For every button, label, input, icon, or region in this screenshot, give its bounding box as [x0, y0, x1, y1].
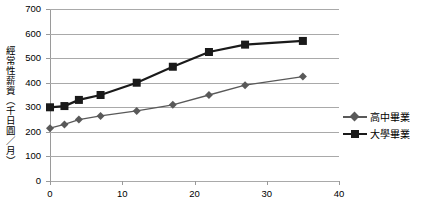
y-tick-label: 300 [8, 102, 41, 111]
data-point-diamond [133, 107, 141, 115]
legend-square-marker-icon [343, 128, 367, 140]
x-tick-label: 20 [180, 189, 210, 198]
chart-legend: 高中畢業 大學畢業 [343, 108, 421, 142]
legend-item-highschool: 高中畢業 [343, 108, 421, 125]
x-tick-label: 40 [324, 189, 354, 198]
legend-item-university: 大學畢業 [343, 125, 421, 142]
x-tick-label: 30 [252, 189, 282, 198]
series-line [50, 41, 303, 107]
data-point-diamond [241, 81, 249, 89]
x-tickmark [122, 181, 123, 185]
legend-label-university: 大學畢業 [367, 126, 410, 141]
y-tick-label: 500 [8, 53, 41, 62]
legend-label-highschool: 高中畢業 [367, 109, 410, 124]
y-tick-label: 700 [8, 4, 41, 13]
data-point-diamond [75, 116, 83, 124]
x-tick-label: 0 [35, 189, 65, 198]
data-point-square [241, 41, 249, 49]
data-point-diamond [299, 73, 307, 81]
data-point-diamond [97, 112, 105, 120]
y-tick-label: 200 [8, 127, 41, 136]
data-point-diamond [60, 120, 68, 128]
y-tick-label: 400 [8, 78, 41, 87]
plot-area [50, 9, 339, 181]
legend-diamond-marker-icon [343, 111, 367, 123]
data-point-square [46, 103, 54, 111]
data-point-square [60, 102, 68, 110]
data-point-square [169, 63, 177, 71]
y-tick-label: 0 [8, 176, 41, 185]
x-tickmark [50, 181, 51, 185]
series-line [50, 77, 303, 129]
data-point-square [97, 91, 105, 99]
y-tick-label: 100 [8, 151, 41, 160]
data-point-square [133, 79, 141, 87]
data-point-diamond [205, 91, 213, 99]
y-tick-label: 600 [8, 29, 41, 38]
x-tickmark [195, 181, 196, 185]
data-point-diamond [169, 101, 177, 109]
line-chart: 經常性薪資（千日圓／月） 0100200300400500600700 0102… [0, 0, 421, 214]
x-tickmark [267, 181, 268, 185]
x-tickmark [339, 181, 340, 185]
data-point-square [299, 37, 307, 45]
x-tick-label: 10 [107, 189, 137, 198]
series-layer [50, 9, 339, 181]
data-point-square [205, 48, 213, 56]
data-point-square [75, 96, 83, 104]
